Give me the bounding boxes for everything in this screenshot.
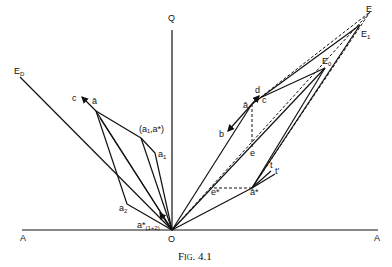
label-a2: a2 [119,203,128,214]
line-O-e-E0 [172,68,325,230]
line-O-E [172,12,370,230]
figure-4-1-diagram: Q O A A E E1 E0 ED c ā (a₁,a*) a1 a2 a*(… [0,0,392,267]
arrow-tprime [252,174,275,188]
label-c-left: c [72,93,77,103]
line-a1astar-O [141,138,172,230]
label-d: d [255,85,260,95]
label-Q: Q [168,13,175,23]
arrow-abar-b [228,104,252,131]
label-abar-right: ā [243,100,248,110]
label-b: b [219,129,224,139]
label-e: e [250,148,255,158]
label-a1: a1 [158,149,167,160]
label-t-prime: t′ [275,166,280,176]
label-astar-1plus2: a*(1+2) [137,220,160,231]
label-ED: ED [14,66,25,77]
label-abar-left: ā [92,96,97,106]
line-abar-a1astar [96,111,141,138]
line-abar-E1 [252,25,360,104]
label-e-star: e* [211,187,220,197]
figure-caption: Fig. 4.1 [178,250,212,262]
label-A-left: A [20,233,26,243]
label-E1: E1 [361,29,371,40]
label-O: O [168,234,175,244]
label-A-right: A [374,233,380,243]
label-E: E [366,4,372,14]
label-t: t [270,160,273,170]
label-a1-astar: (a₁,a*) [139,124,164,134]
label-c-right: c [262,95,267,105]
label-abar-star: ā* [250,187,259,197]
label-E0: E0 [322,56,332,67]
line-E0-abarstar [252,68,325,188]
line-abarstar-E1 [252,25,360,188]
line-O-abar-right [172,104,252,230]
